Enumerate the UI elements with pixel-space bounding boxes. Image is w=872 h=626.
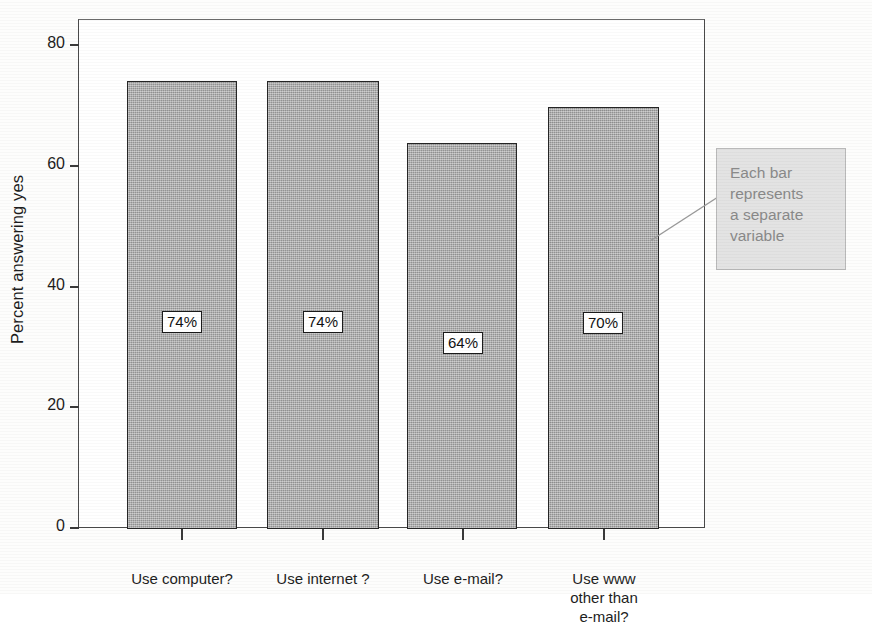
y-tick-label: 0: [56, 517, 65, 535]
bar-use-internet[interactable]: [267, 81, 379, 529]
y-tick-mark: [70, 286, 79, 288]
y-tick-label: 60: [47, 155, 65, 173]
y-tick-label: 80: [47, 34, 65, 52]
y-tick-mark: [70, 165, 79, 167]
bar-value-label-use-computer: 74%: [162, 311, 202, 333]
x-tick-label-use-www-other-than-email: Use www other than e-mail?: [554, 569, 654, 626]
x-tick-mark-4: [603, 529, 605, 540]
y-axis-title: Percent answering yes: [8, 60, 27, 460]
y-tick-label: 40: [47, 276, 65, 294]
x-tick-mark-1: [181, 529, 183, 540]
bar-value-label-use-internet: 74%: [303, 311, 343, 333]
x-tick-mark-3: [462, 529, 464, 540]
x-tick-label-use-computer: Use computer?: [131, 569, 233, 588]
x-tick-mark-2: [322, 529, 324, 540]
annotation-callout: Each bar represents a separate variable: [716, 148, 846, 270]
bar-value-label-use-www-other-than-email: 70%: [583, 312, 623, 334]
x-tick-label-use-internet: Use internet ?: [276, 569, 369, 588]
y-tick-mark: [70, 527, 79, 529]
plot-area: 80 60 40 20 0 74% 74% 64% 70%: [78, 19, 705, 528]
y-tick-mark: [70, 44, 79, 46]
y-tick-mark: [70, 406, 79, 408]
bar-use-computer[interactable]: [127, 81, 237, 529]
bar-value-label-use-email: 64%: [443, 332, 483, 354]
x-tick-label-use-email: Use e-mail?: [423, 569, 503, 588]
y-tick-label: 20: [47, 396, 65, 414]
